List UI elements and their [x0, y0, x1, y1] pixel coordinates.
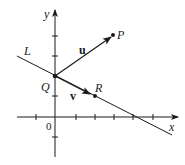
vector-u-label: u	[79, 43, 86, 57]
x-axis-label: x	[168, 120, 175, 134]
y-axis	[52, 10, 58, 157]
vector-v-label: v	[70, 89, 76, 103]
point-P-label: P	[116, 28, 125, 42]
y-axis-label: y	[43, 7, 50, 21]
vector-line-diagram: y x 0 L P Q R u v	[0, 0, 185, 165]
point-P	[111, 33, 115, 37]
point-R-label: R	[94, 81, 103, 95]
origin-label: 0	[46, 120, 52, 132]
line-L-label: L	[23, 44, 31, 58]
point-Q-label: Q	[41, 80, 50, 94]
point-Q	[53, 74, 58, 79]
x-axis	[17, 114, 178, 120]
